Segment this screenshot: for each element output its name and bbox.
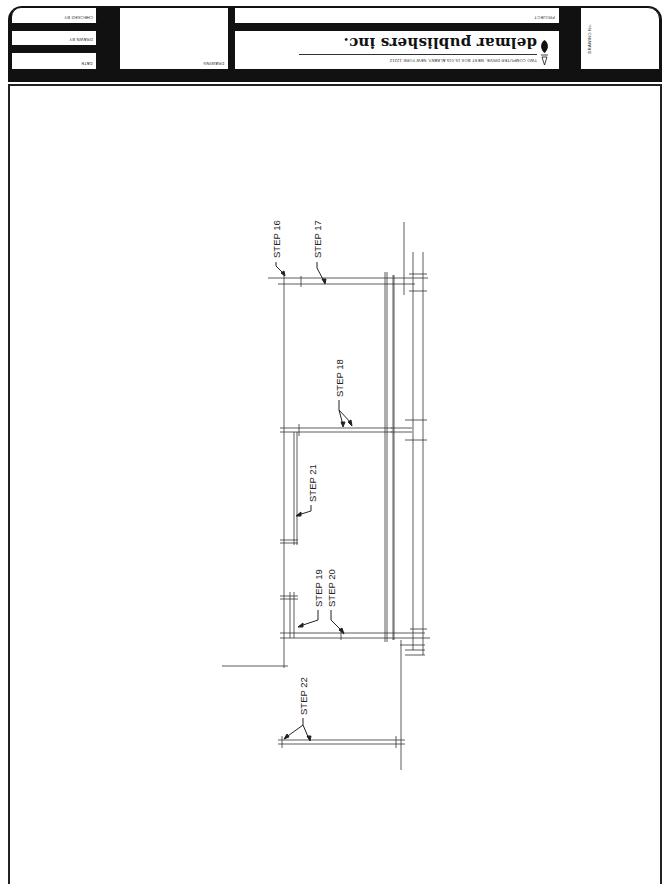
callout-step18: STEP 18: [334, 359, 345, 397]
callout-step19: STEP 19: [313, 569, 324, 607]
callout-step22: STEP 22: [298, 677, 309, 715]
callout-step16: STEP 16: [271, 220, 282, 258]
callout-step20: STEP 20: [326, 569, 337, 607]
callout-step21: STEP 21: [307, 464, 318, 502]
callout-step17: STEP 17: [312, 220, 323, 258]
construction-lines: [222, 222, 430, 770]
callout-labels: STEP 16 STEP 17 STEP 18 STEP 21 STEP 19 …: [271, 220, 345, 715]
